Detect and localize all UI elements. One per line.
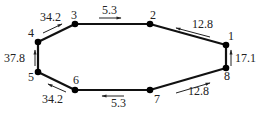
node-label: 8 — [224, 69, 230, 83]
flow-label: 12.8 — [192, 17, 213, 31]
edge-1-2 — [150, 24, 226, 45]
node-label: 5 — [28, 70, 34, 84]
flow-label: 5.3 — [102, 3, 117, 17]
node-7 — [147, 87, 154, 94]
node-label: 7 — [154, 92, 160, 106]
node-label: 2 — [150, 8, 156, 22]
node-4 — [35, 39, 42, 46]
node-6 — [72, 87, 79, 94]
ring-network-diagram: 12.85.334.237.834.25.312.817.1 12345678 — [0, 0, 261, 115]
flow-label: 34.2 — [40, 10, 61, 24]
node-label: 1 — [228, 29, 234, 43]
node-label: 3 — [71, 8, 77, 22]
flow-arrows: 12.85.334.237.834.25.312.817.1 — [4, 3, 256, 110]
node-5 — [35, 69, 42, 76]
node-label: 4 — [28, 26, 34, 40]
node-label: 6 — [73, 73, 79, 87]
flow-label: 5.3 — [111, 96, 126, 110]
flow-label: 17.1 — [235, 51, 256, 65]
flow-label: 12.8 — [188, 84, 209, 98]
flow-label: 37.8 — [4, 51, 25, 65]
flow-label: 34.2 — [42, 92, 63, 106]
